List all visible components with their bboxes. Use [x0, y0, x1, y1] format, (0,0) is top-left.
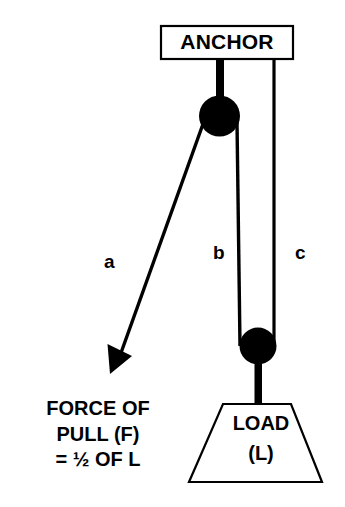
force-arrow-head [108, 344, 133, 374]
load-label-primary: LOAD [196, 413, 326, 433]
force-caption-line-2: PULL (F) [8, 422, 188, 448]
anchor-label: ANCHOR [160, 31, 294, 52]
rope-b-line [237, 122, 240, 346]
force-caption: FORCE OF PULL (F) = ½ OF L [8, 396, 188, 473]
rope-label-b: b [213, 243, 225, 262]
upper-pulley-wheel [199, 96, 240, 137]
load-hanger-rod [255, 346, 263, 404]
load-label-secondary: (L) [196, 443, 326, 463]
rope-label-c: c [295, 243, 306, 262]
force-caption-line-3: = ½ OF L [8, 447, 188, 473]
force-caption-line-1: FORCE OF [8, 396, 188, 422]
rope-a-line [117, 124, 203, 364]
pulley-diagram-canvas: ANCHOR a b c LOAD (L) FORCE OF PULL (F) … [0, 0, 345, 507]
rope-label-a: a [104, 252, 115, 271]
